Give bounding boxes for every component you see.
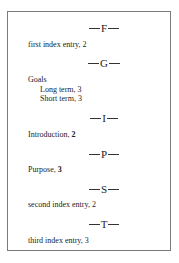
dash-right <box>108 28 119 29</box>
dash-right <box>108 154 119 155</box>
index-subentry: Long term, 3 <box>40 85 82 94</box>
entry-text: Long term, <box>40 85 78 94</box>
dash-right <box>108 189 119 190</box>
index-heading-i: I <box>8 113 170 124</box>
entry-page: 3 <box>85 236 89 245</box>
entry-page: 3 <box>78 94 82 103</box>
index-entry: Introduction, 2 <box>28 130 76 139</box>
dash-right <box>108 224 119 225</box>
index-subentry: Short term, 3 <box>40 94 82 103</box>
entry-text: Purpose, <box>28 165 58 174</box>
entry-text: Introduction, <box>28 130 72 139</box>
index-entry: third index entry, 3 <box>28 236 89 245</box>
entry-text: third index entry, <box>28 236 85 245</box>
heading-letter: S <box>101 183 107 195</box>
dash-left <box>90 118 101 119</box>
dash-left <box>89 189 100 190</box>
entry-text: Goals <box>28 75 47 84</box>
dash-right <box>107 118 118 119</box>
entry-text: first index entry, <box>28 40 83 49</box>
index-heading-g: G <box>8 58 170 69</box>
dash-left <box>89 154 100 155</box>
index-heading-p: P <box>8 149 170 160</box>
index-page-frame: F first index entry, 2 G Goals Long term… <box>7 11 171 251</box>
entry-page-bold: 2 <box>72 130 76 139</box>
index-entry: first index entry, 2 <box>28 40 87 49</box>
heading-letter: T <box>101 218 108 230</box>
entry-text: second index entry, <box>28 200 92 209</box>
entry-text: Short term, <box>40 94 78 103</box>
index-entry: second index entry, 2 <box>28 200 96 209</box>
index-heading-s: S <box>8 184 170 195</box>
heading-letter: G <box>100 57 108 69</box>
dash-left <box>88 63 99 64</box>
entry-page: 3 <box>78 85 82 94</box>
dash-left <box>89 224 100 225</box>
index-heading-f: F <box>8 23 170 34</box>
heading-letter: F <box>101 22 107 34</box>
entry-page-bold: 3 <box>58 165 62 174</box>
heading-letter: P <box>101 148 107 160</box>
entry-page: 2 <box>83 40 87 49</box>
entry-page: 2 <box>92 200 96 209</box>
heading-letter: I <box>102 112 106 124</box>
dash-left <box>89 28 100 29</box>
dash-right <box>109 63 120 64</box>
index-entry: Purpose, 3 <box>28 165 62 174</box>
index-heading-t: T <box>8 219 170 230</box>
index-entry: Goals <box>28 75 47 84</box>
